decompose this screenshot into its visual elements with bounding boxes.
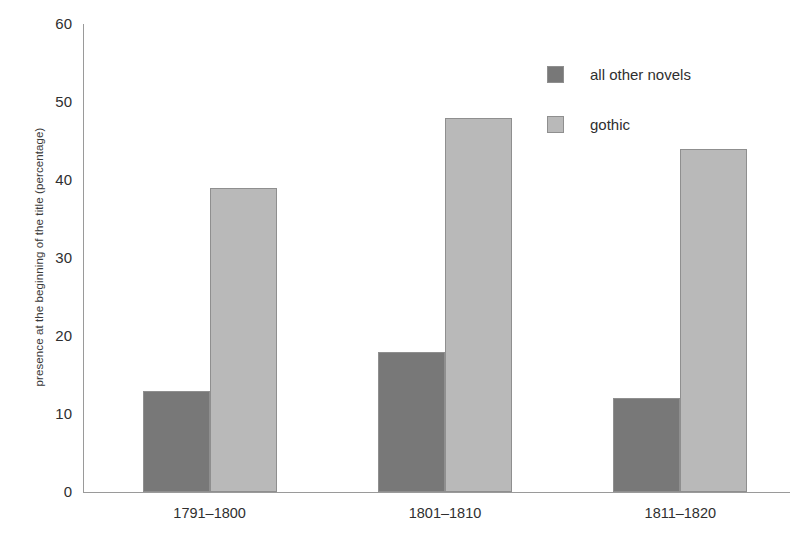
legend-item-all-other-novels[interactable]: all other novels (547, 62, 691, 86)
y-tick-label: 50 (0, 93, 72, 111)
legend-swatch-icon-gothic (547, 116, 564, 133)
y-tick-label-text: 20 (0, 327, 72, 345)
y-tick-label: 30 (0, 249, 72, 267)
y-tick-label-text: 50 (0, 93, 72, 111)
bar-chart-figure: presence at the beginning of the title (… (0, 0, 800, 544)
legend-label-all-other-novels: all other novels (590, 66, 691, 83)
bar-1811–1820-gothic[interactable] (680, 149, 747, 492)
bar-1801–1810-gothic[interactable] (445, 118, 512, 492)
x-tick-label: 1811–1820 (600, 502, 760, 524)
bar-1791–1800-all-other-novels[interactable] (143, 391, 210, 492)
y-tick-label: 10 (0, 405, 72, 423)
y-tick-label-text: 30 (0, 249, 72, 267)
y-tick-label-text: 60 (0, 15, 72, 33)
legend-item-gothic[interactable]: gothic (547, 112, 691, 136)
y-tick-label-text: 10 (0, 405, 72, 423)
y-tick-label: 0 (0, 483, 72, 501)
x-tick-label: 1791–1800 (130, 502, 290, 524)
legend-swatch-icon-all-other-novels (547, 66, 564, 83)
bar-1801–1810-all-other-novels[interactable] (378, 352, 445, 492)
y-tick-label-text: 40 (0, 171, 72, 189)
x-axis-line (83, 492, 790, 493)
y-tick-label: 20 (0, 327, 72, 345)
chart-legend: all other novels gothic (547, 62, 691, 162)
legend-label-gothic: gothic (590, 116, 630, 133)
bar-1791–1800-gothic[interactable] (210, 188, 277, 492)
y-tick-label-text: 0 (0, 483, 72, 501)
x-tick-label: 1801–1810 (365, 502, 525, 524)
bar-1811–1820-all-other-novels[interactable] (613, 398, 680, 492)
y-tick-label: 60 (0, 15, 72, 33)
y-tick-label: 40 (0, 171, 72, 189)
